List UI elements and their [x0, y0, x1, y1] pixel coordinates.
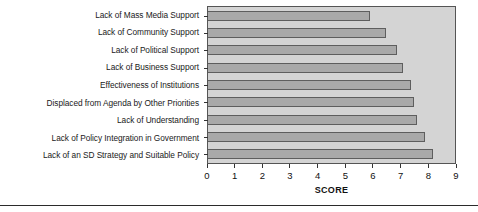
x-tick [456, 164, 457, 168]
x-tick-label: 5 [343, 170, 348, 181]
bar [208, 45, 397, 55]
bar [208, 80, 411, 90]
bar [208, 11, 370, 21]
x-tick [289, 164, 290, 168]
x-tick [400, 164, 401, 168]
bar [208, 97, 414, 107]
bar-series [208, 7, 455, 163]
bar-row [208, 7, 455, 24]
bar-row [208, 128, 455, 145]
x-tick-label: 6 [370, 170, 375, 181]
x-tick [345, 164, 346, 168]
bar [208, 149, 433, 159]
x-tick [428, 164, 429, 168]
x-tick-label: 2 [260, 170, 265, 181]
x-tick [317, 164, 318, 168]
category-tick [204, 50, 208, 51]
x-tick-label: 3 [287, 170, 292, 181]
category-label: Lack of Community Support [0, 24, 203, 42]
x-axis-tick-labels: 0123456789 [207, 170, 456, 183]
x-tick-label: 4 [315, 170, 320, 181]
category-tick [204, 137, 208, 138]
x-tick-label: 8 [426, 170, 431, 181]
category-label: Effectiveness of Institutions [0, 76, 203, 94]
bar [208, 115, 417, 125]
category-tick [204, 120, 208, 121]
category-tick [204, 33, 208, 34]
footer-divider [0, 205, 478, 206]
x-tick [207, 164, 208, 168]
bar-row [208, 42, 455, 59]
bar-row [208, 111, 455, 128]
x-tick-label: 0 [204, 170, 209, 181]
category-label: Lack of an SD Strategy and Suitable Poli… [0, 147, 203, 165]
category-label: Lack of Business Support [0, 59, 203, 77]
x-tick-label: 9 [453, 170, 458, 181]
x-axis-ticks [207, 164, 456, 169]
category-label: Lack of Policy Integration in Government [0, 129, 203, 147]
x-tick-label: 1 [232, 170, 237, 181]
x-tick [262, 164, 263, 168]
plot-area [207, 6, 456, 164]
bar [208, 28, 386, 38]
category-axis-labels: Lack of Mass Media SupportLack of Commun… [0, 6, 203, 164]
category-tick [204, 16, 208, 17]
bar [208, 63, 403, 73]
category-label: Lack of Understanding [0, 111, 203, 129]
category-label: Displaced from Agenda by Other Prioritie… [0, 94, 203, 112]
category-tick [204, 68, 208, 69]
x-tick [234, 164, 235, 168]
bar-row [208, 146, 455, 163]
category-label: Lack of Mass Media Support [0, 6, 203, 24]
bar-chart-figure: Lack of Mass Media SupportLack of Commun… [0, 0, 478, 212]
bar [208, 132, 425, 142]
category-tick [204, 102, 208, 103]
x-axis-title: SCORE [207, 185, 456, 195]
bar-row [208, 59, 455, 76]
category-label: Lack of Political Support [0, 41, 203, 59]
bar-row [208, 76, 455, 93]
category-tick [204, 85, 208, 86]
bar-row [208, 94, 455, 111]
category-tick [204, 154, 208, 155]
bar-row [208, 24, 455, 41]
x-tick-label: 7 [398, 170, 403, 181]
x-tick [372, 164, 373, 168]
